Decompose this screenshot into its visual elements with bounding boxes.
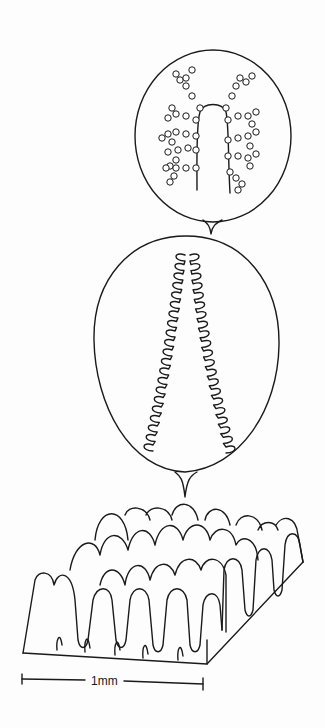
beaded-branches: [159, 67, 259, 193]
scale-bar-label: 1mm: [88, 674, 121, 688]
top-section: [135, 50, 291, 234]
middle-section: [94, 236, 279, 497]
folded-lining: [144, 254, 235, 453]
diagram-canvas: [0, 0, 325, 728]
projection-block: [23, 504, 303, 664]
